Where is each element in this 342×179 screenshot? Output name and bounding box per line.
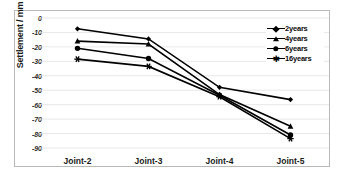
legend-item-4years[interactable]: 4years [267,34,323,43]
chart-legend: 2years4years6years✱16years [266,22,324,66]
legend-item-label: 2years [285,24,308,33]
data-point [146,56,151,61]
series-line [78,29,291,100]
series-4years [75,38,294,129]
data-point [75,26,80,31]
data-point [288,97,293,102]
series-6years [75,46,293,138]
series-line [78,41,291,126]
legend-marker-asterisk-icon: ✱ [267,54,285,63]
legend-item-16years[interactable]: ✱16years [267,54,323,63]
legend-item-label: 4years [285,34,308,43]
legend-item-label: 6years [285,44,308,53]
legend-item-2years[interactable]: 2years [267,24,323,33]
legend-marker-circle-icon [267,44,285,53]
data-point [145,64,151,70]
legend-marker-diamond-icon [267,24,285,33]
series-2years [75,26,293,102]
data-point [75,46,80,51]
legend-item-6years[interactable]: 6years [267,44,323,53]
series-line [78,59,291,138]
settlement-line-chart: Settlement / mm 0-10-20-30-40-50-60-70-8… [0,0,342,179]
legend-marker-triangle-icon [267,34,285,43]
legend-item-label: 16years [285,54,312,63]
